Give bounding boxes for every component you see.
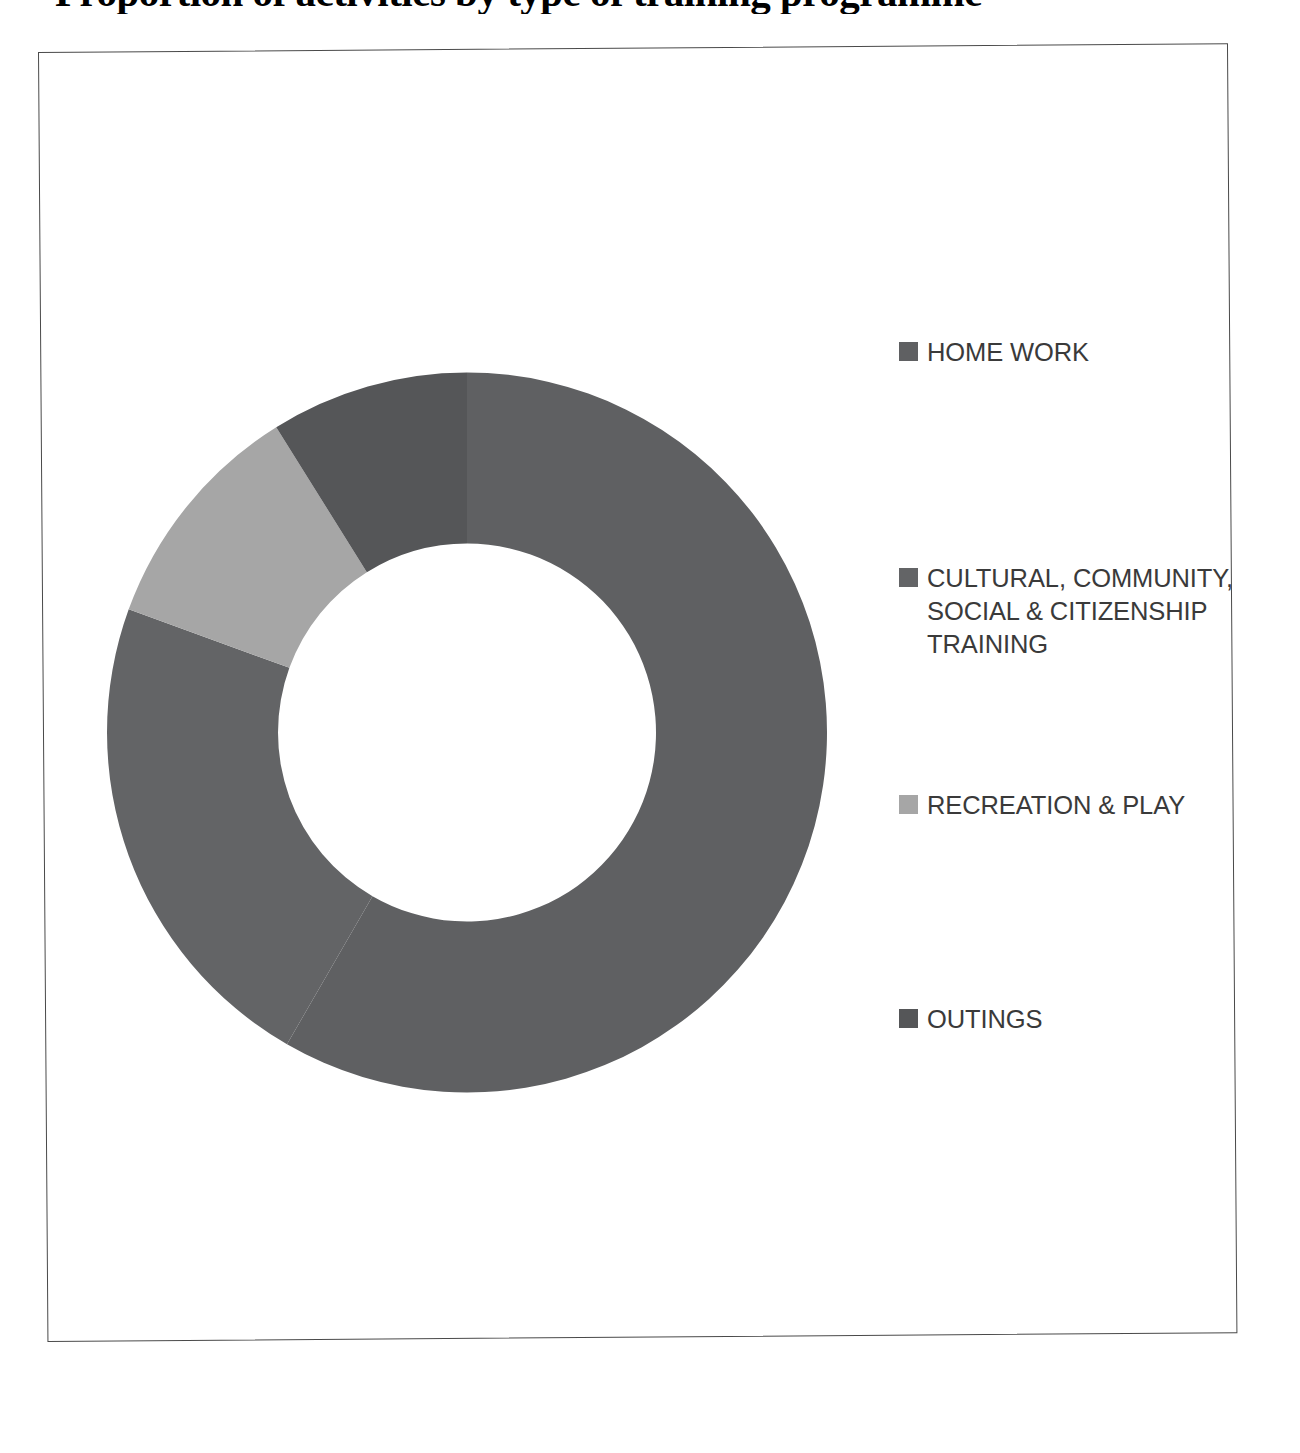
chart-page: Proportion of activities by type of trai… [0,0,1300,1453]
legend-item-recreation[interactable]: RECREATION & PLAY [899,789,1185,822]
legend-label-home-work: HOME WORK [927,336,1089,369]
legend-item-home-work[interactable]: HOME WORK [899,336,1089,369]
legend-item-outings[interactable]: OUTINGS [899,1003,1042,1036]
legend-label-outings: OUTINGS [927,1003,1042,1036]
legend-swatch-home-work [899,342,918,361]
legend-label-cultural: CULTURAL, COMMUNITY, SOCIAL & CITIZENSHI… [927,562,1233,661]
legend-label-recreation: RECREATION & PLAY [927,789,1185,822]
legend-swatch-cultural [899,568,918,587]
donut-chart [107,372,827,1093]
donut-chart-svg [107,372,827,1093]
page-title: Proportion of activities by type of trai… [55,0,982,14]
legend-swatch-recreation [899,795,918,814]
legend-swatch-outings [899,1009,918,1028]
legend-item-cultural[interactable]: CULTURAL, COMMUNITY, SOCIAL & CITIZENSHI… [899,562,1233,661]
page-title-clipped: Proportion of activities by type of trai… [0,0,1300,14]
donut-slices [107,373,827,1093]
